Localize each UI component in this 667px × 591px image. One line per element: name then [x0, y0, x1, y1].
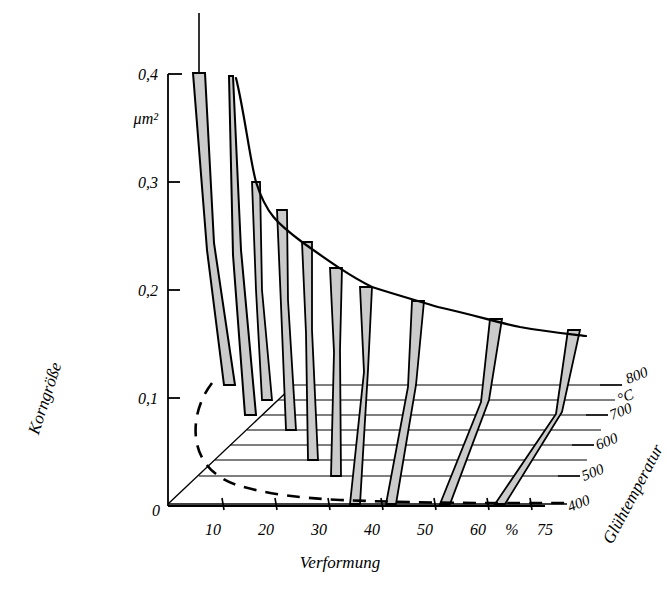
y-axis-title: Korngröße	[24, 359, 66, 437]
x-tick-label-40: 40	[364, 521, 380, 538]
peak-ridge-600	[252, 182, 272, 400]
y-tick-label-0-2: 0,2	[138, 282, 158, 299]
y-tick-label-0-4: 0,4	[138, 66, 158, 83]
x-tick-10	[222, 498, 224, 510]
x-tick-40	[381, 498, 383, 510]
peak-fill-800	[193, 73, 235, 385]
x-tick-50	[434, 498, 436, 510]
z-tick-label-500: 500	[579, 460, 606, 483]
x-tick-label-10: 10	[205, 521, 221, 538]
peak-fill-450	[330, 268, 342, 476]
peak-ridge-500	[302, 242, 318, 460]
x-tick-label-30: 30	[310, 521, 327, 538]
peak-ridge-60	[495, 330, 580, 504]
peak-fill-60	[495, 330, 580, 504]
peak-fill-500	[302, 242, 318, 460]
x-tick-label-20: 20	[258, 521, 274, 538]
peak-ridge-800	[193, 13, 235, 385]
y-axis	[168, 74, 182, 506]
y-tick-label-0: 0	[152, 502, 160, 519]
x-tick-30	[328, 498, 330, 510]
z-axis-title: Glühtemperatur	[599, 441, 667, 547]
x-tick-label-50: 50	[417, 521, 433, 538]
z-tick-label-400: 400	[565, 491, 592, 514]
peak-fill-700	[229, 76, 256, 415]
korngroesse-3d-surface-chart: 0,4 μm² 0,3 0,2 0,1 0 Korngröße 10 20 30…	[0, 0, 667, 591]
peak-fill-400	[350, 287, 372, 504]
peak-ridge-30	[386, 301, 424, 504]
x-tick-label-60: 60	[470, 521, 486, 538]
y-unit-label: μm²	[133, 110, 160, 128]
x-tick-label-75: 75	[537, 521, 553, 538]
z-tick-label-800: 800	[623, 363, 650, 386]
peak-fill-30	[386, 301, 424, 504]
y-tick-label-0-3: 0,3	[138, 174, 158, 191]
peak-ridge-450	[330, 268, 342, 476]
x-tick-20	[275, 498, 277, 510]
peak-ridge-400	[350, 287, 372, 504]
peak-ridge-550	[277, 210, 296, 430]
chart-canvas: 0,4 μm² 0,3 0,2 0,1 0 Korngröße 10 20 30…	[0, 0, 667, 591]
z-tick-label-600: 600	[593, 429, 620, 452]
x-unit-label: %	[505, 521, 518, 538]
y-tick-label-0-1: 0,1	[138, 390, 158, 407]
peak-fill-600	[252, 182, 272, 400]
peak-fill-550	[277, 210, 296, 430]
x-axis-title: Verformung	[300, 553, 380, 572]
peak-ridge-700	[229, 76, 256, 415]
